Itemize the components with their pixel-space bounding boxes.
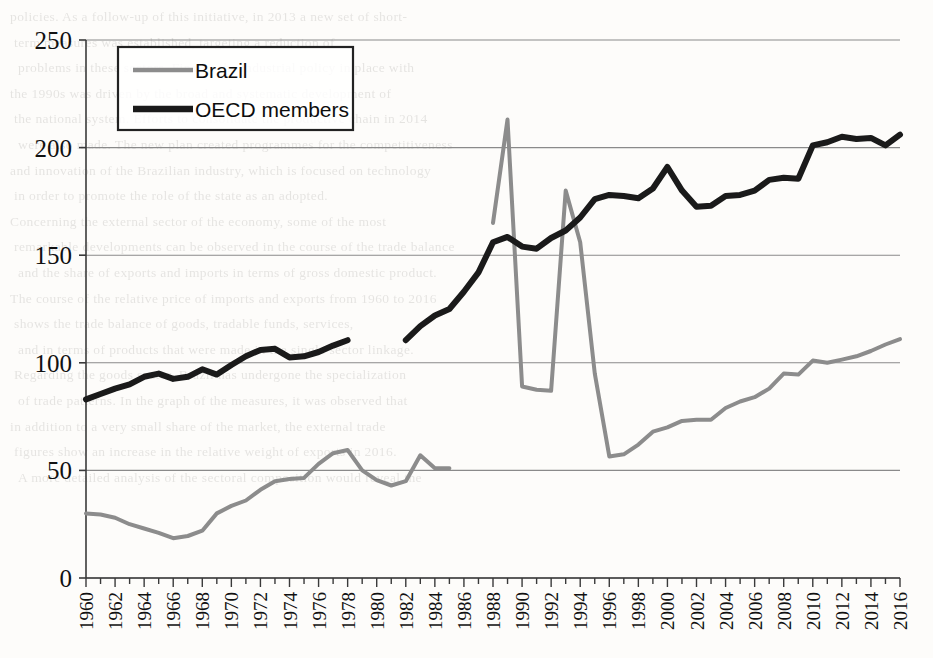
x-tick-label: 1974 bbox=[280, 592, 301, 631]
y-tick-label: 250 bbox=[35, 27, 73, 54]
x-tick-label: 1972 bbox=[250, 592, 271, 630]
x-tick-label: 1994 bbox=[570, 592, 591, 631]
chart-legend: Brazil OECD members bbox=[118, 47, 353, 130]
y-tick-label: 150 bbox=[35, 242, 73, 269]
x-tick-label: 1966 bbox=[163, 592, 184, 630]
x-tick-label: 1984 bbox=[425, 592, 446, 631]
x-tick-label: 1990 bbox=[512, 592, 533, 630]
y-tick-label: 0 bbox=[60, 565, 73, 592]
y-tick-label: 200 bbox=[35, 135, 73, 162]
data-series-group bbox=[86, 120, 900, 539]
x-tick-label: 1996 bbox=[599, 592, 620, 630]
series-line-oecd-members bbox=[86, 340, 348, 399]
x-tick-label: 1982 bbox=[396, 592, 417, 630]
x-tick-label: 1998 bbox=[628, 592, 649, 630]
chart-figure: 050100150200250 196019621964196619681970… bbox=[0, 0, 933, 658]
x-tick-marks-group bbox=[86, 578, 900, 587]
x-tick-label: 1978 bbox=[338, 592, 359, 630]
y-axis-tick-labels: 050100150200250 bbox=[35, 27, 73, 592]
series-line-brazil bbox=[493, 120, 900, 457]
x-tick-label: 2008 bbox=[774, 592, 795, 630]
x-tick-label: 1976 bbox=[309, 592, 330, 630]
x-tick-label: 1992 bbox=[541, 592, 562, 630]
x-tick-label: 1964 bbox=[134, 592, 155, 631]
x-tick-label: 2006 bbox=[745, 592, 766, 630]
x-tick-label: 2014 bbox=[861, 592, 882, 631]
x-tick-label: 1980 bbox=[367, 592, 388, 630]
x-tick-label: 2012 bbox=[832, 592, 853, 630]
x-tick-label: 1986 bbox=[454, 592, 475, 630]
series-line-brazil bbox=[86, 450, 449, 538]
x-tick-label: 1988 bbox=[483, 592, 504, 630]
y-tick-label: 100 bbox=[35, 350, 73, 377]
scanned-chart-page: policies. As a follow-up of this initiat… bbox=[0, 0, 933, 658]
x-tick-label: 1968 bbox=[192, 592, 213, 630]
x-axis-tick-labels: 1960196219641966196819701972197419761978… bbox=[76, 592, 911, 631]
series-line-oecd-members bbox=[406, 135, 900, 341]
x-tick-label: 1960 bbox=[76, 592, 97, 630]
y-tick-label: 50 bbox=[47, 457, 72, 484]
x-tick-label: 2004 bbox=[716, 592, 737, 631]
legend-label-oecd: OECD members bbox=[195, 98, 349, 121]
x-tick-label: 1962 bbox=[105, 592, 126, 630]
x-tick-label: 1970 bbox=[221, 592, 242, 630]
line-chart-svg: 050100150200250 196019621964196619681970… bbox=[0, 0, 933, 658]
x-tick-label: 2002 bbox=[687, 592, 708, 630]
x-tick-label: 2016 bbox=[890, 592, 911, 630]
x-tick-label: 2010 bbox=[803, 592, 824, 630]
x-tick-label: 2000 bbox=[657, 592, 678, 630]
legend-label-brazil: Brazil bbox=[195, 59, 248, 82]
